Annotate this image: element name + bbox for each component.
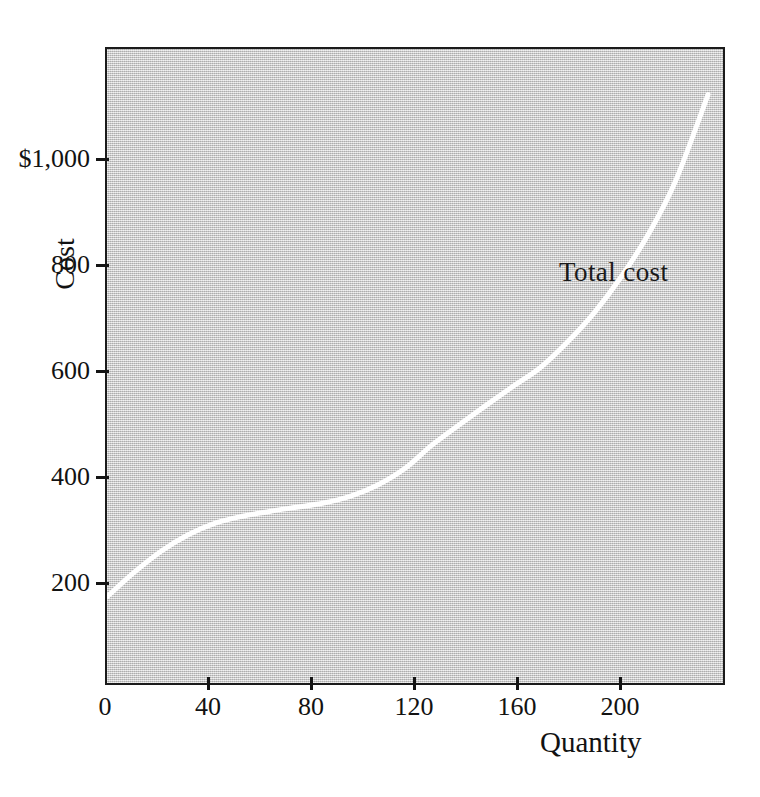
x-tick-label-160: 160 (485, 692, 549, 722)
plot-area: Total cost (105, 47, 725, 685)
y-tick-mark-1000 (96, 158, 109, 161)
x-tick-label-200: 200 (588, 692, 652, 722)
x-tick-mark-80 (310, 677, 313, 690)
x-tick-mark-40 (207, 677, 210, 690)
y-tick-mark-600 (96, 370, 109, 373)
y-tick-label-200: 200 (0, 568, 90, 598)
x-tick-mark-120 (413, 677, 416, 690)
total-cost-curve-path (107, 95, 708, 597)
x-tick-label-120: 120 (382, 692, 446, 722)
y-axis-title: Cost (49, 209, 81, 319)
figure-total-cost-chart: Total cost $1,000 800 600 400 200 0 40 8… (0, 0, 760, 797)
series-label-total-cost: Total cost (559, 257, 668, 288)
y-tick-mark-200 (96, 582, 109, 585)
x-tick-mark-200 (619, 677, 622, 690)
y-tick-label-400: 400 (0, 462, 90, 492)
total-cost-curve-svg (107, 49, 725, 685)
y-tick-mark-800 (96, 264, 109, 267)
y-tick-label-600: 600 (0, 356, 90, 386)
y-tick-label-1000: $1,000 (0, 144, 90, 174)
x-tick-mark-160 (516, 677, 519, 690)
x-axis-title: Quantity (540, 726, 642, 759)
y-tick-mark-400 (96, 476, 109, 479)
x-tick-label-40: 40 (183, 692, 233, 722)
x-tick-label-80: 80 (286, 692, 336, 722)
x-tick-label-0: 0 (85, 692, 125, 722)
